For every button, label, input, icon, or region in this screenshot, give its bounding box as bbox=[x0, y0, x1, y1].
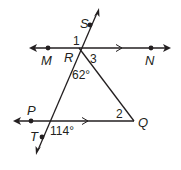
arrowhead-down-icon bbox=[36, 146, 42, 155]
label-r: R bbox=[64, 50, 73, 65]
angle-3-label: 3 bbox=[90, 52, 97, 66]
angle-2-label: 2 bbox=[116, 107, 123, 121]
angle-r-62-label: 62° bbox=[72, 68, 90, 82]
label-s: S bbox=[80, 16, 89, 31]
point-p bbox=[29, 119, 34, 124]
geometry-diagram: S M R N P T Q 1 3 62° 2 114° bbox=[0, 0, 181, 170]
segment-rq bbox=[79, 48, 134, 121]
label-t: T bbox=[30, 129, 39, 144]
point-n bbox=[149, 46, 154, 51]
angle-1-label: 1 bbox=[73, 34, 80, 48]
point-t bbox=[40, 135, 45, 140]
label-m: M bbox=[41, 53, 52, 68]
angle-t-114-label: 114° bbox=[50, 124, 74, 138]
arrowhead-up-icon bbox=[94, 8, 100, 17]
label-n: N bbox=[145, 53, 155, 68]
point-m bbox=[46, 46, 51, 51]
label-q: Q bbox=[138, 115, 148, 130]
label-p: P bbox=[27, 103, 36, 118]
